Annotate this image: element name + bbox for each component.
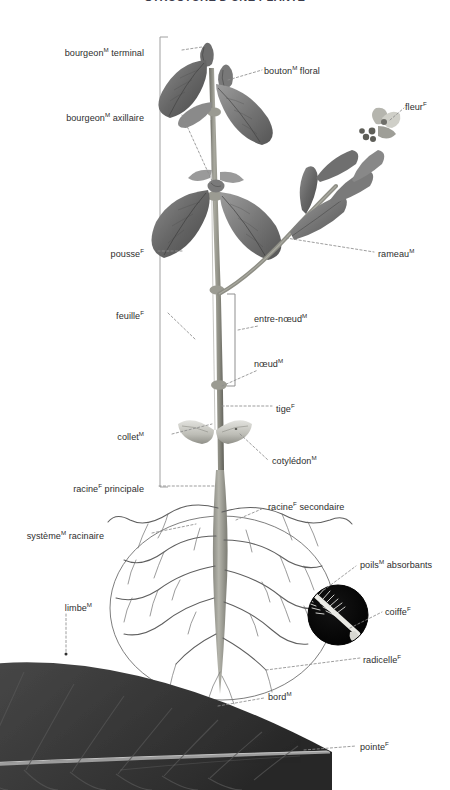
stem <box>209 68 224 470</box>
leader-cotyledon <box>240 434 268 460</box>
label-bouton-floral: boutonM floral <box>264 63 320 76</box>
label-systeme-racinaire: systèmeM racinaire <box>27 528 104 541</box>
leader-bouton-floral <box>228 70 262 80</box>
root-tip-inset <box>305 585 368 645</box>
gender-marker: F <box>291 402 295 409</box>
leaf-closeup <box>0 662 332 790</box>
label-coiffe: coiffeF <box>385 604 411 617</box>
leader-entre-noeud <box>238 326 258 330</box>
leaf-upper-right <box>216 84 273 145</box>
leader-bourgeon-terminal <box>182 47 202 50</box>
label-text: bourgeon <box>65 48 104 58</box>
label-feuille: feuilleF <box>116 308 144 321</box>
leader-rameau <box>286 238 374 252</box>
label-poils-absorbants: poilsM absorbants <box>360 557 432 570</box>
label-text: entre-nœud <box>254 314 302 324</box>
secondary-roots <box>108 505 352 670</box>
gender-marker: F <box>407 605 411 612</box>
gender-marker: M <box>311 454 316 461</box>
leader-racine-secondaire <box>236 508 264 520</box>
leader-bord <box>218 698 264 706</box>
gender-marker: M <box>302 312 307 319</box>
label-text: bouton <box>264 66 292 76</box>
label-entre-noeud: entre-nœudM <box>254 311 307 324</box>
taproot <box>213 470 228 694</box>
gender-marker: M <box>139 430 144 437</box>
label-text: cotylédon <box>272 456 311 466</box>
label-text: pousse <box>111 249 141 259</box>
label-text: limbe <box>65 603 87 613</box>
gender-marker: M <box>409 247 414 254</box>
label-text: pointe <box>360 742 385 752</box>
label-text: système <box>27 531 61 541</box>
gender-marker: F <box>385 740 389 747</box>
label-tail: racinaire <box>66 531 104 541</box>
gender-marker: F <box>423 100 427 107</box>
label-radicelle: radicelleF <box>363 652 401 665</box>
label-text: tige <box>276 404 291 414</box>
label-rameau: rameauM <box>378 246 414 259</box>
label-text: collet <box>117 432 139 442</box>
label-tail: principale <box>102 484 144 494</box>
label-pointe: pointeF <box>360 739 389 752</box>
label-text: bord <box>268 692 286 702</box>
label-text: racine <box>268 502 293 512</box>
label-tige: tigeF <box>276 401 295 414</box>
label-text: rameau <box>378 249 409 259</box>
gender-marker: M <box>286 690 291 697</box>
label-tail: floral <box>297 66 320 76</box>
label-fleur: fleurF <box>405 99 427 112</box>
label-text: radicelle <box>363 655 397 665</box>
label-tail: axillaire <box>110 113 144 123</box>
branch-leaves <box>290 150 384 240</box>
label-text: racine <box>73 484 98 494</box>
label-text: feuille <box>116 311 140 321</box>
axillary-bud <box>208 180 225 193</box>
label-cotyledon: cotylédonM <box>272 453 317 466</box>
label-text: coiffe <box>385 607 407 617</box>
gender-marker: F <box>140 247 144 254</box>
leader-bourgeon-axillaire <box>182 115 212 181</box>
leader-radicelle <box>266 658 360 670</box>
label-racine-secondaire: racineF secondaire <box>268 499 344 512</box>
leader-dot-limbe <box>65 653 68 656</box>
label-bourgeon-axillaire: bourgeonM axillaire <box>66 110 144 123</box>
label-collet: colletM <box>117 429 144 442</box>
label-noeud: nœudM <box>254 356 283 369</box>
flower <box>359 108 400 142</box>
gender-marker: M <box>87 601 92 608</box>
label-racine-principale: racineF principale <box>73 481 144 494</box>
label-bord: bordM <box>268 689 292 702</box>
bracket-entre-noeud <box>227 294 235 386</box>
diagram-canvas: STRUCTURE D'UNE PLANTE bourgeonM termina… <box>0 0 450 790</box>
label-bourgeon-terminal: bourgeonM terminal <box>65 45 144 58</box>
label-text: poils <box>360 560 379 570</box>
leader-dots <box>65 653 68 656</box>
label-text: fleur <box>405 102 423 112</box>
gender-marker: M <box>278 357 283 364</box>
page-title: STRUCTURE D'UNE PLANTE <box>0 0 450 3</box>
label-tail: absorbants <box>384 560 432 570</box>
label-limbe: limbeM <box>65 600 92 613</box>
label-tail: secondaire <box>297 502 345 512</box>
gender-marker: F <box>397 653 401 660</box>
leader-noeud <box>222 370 258 386</box>
leader-feuille <box>168 313 196 340</box>
label-tail: terminal <box>109 48 144 58</box>
gender-marker: F <box>140 309 144 316</box>
label-text: bourgeon <box>66 113 105 123</box>
label-pousse: pousseF <box>111 246 144 259</box>
label-text: nœud <box>254 359 278 369</box>
